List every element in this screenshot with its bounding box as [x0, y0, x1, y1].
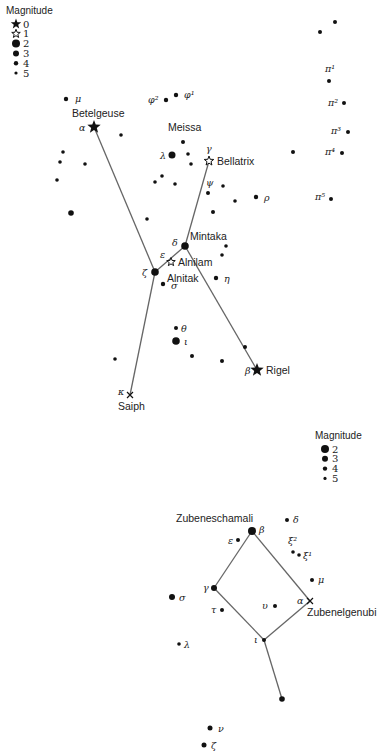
star-dot-icon [153, 180, 157, 184]
orion-greek-label-sigma: σ [171, 280, 178, 291]
star-dot-icon [113, 357, 117, 361]
orion-greek-label-saiph: κ [117, 386, 125, 397]
orion-star-bellatrix-icon [204, 156, 214, 165]
orion-star-name-meissa: Meissa [168, 121, 201, 133]
libra-greek-label-tau: τ [211, 604, 217, 615]
libra-star-zubeneschamali-icon [248, 527, 256, 535]
star-chart: αBetelgeuseβRigelγBellatrixδMintakaεAlni… [0, 0, 391, 751]
orion-greek-label-alnilam: ε [160, 249, 165, 260]
star-dot-icon [83, 162, 87, 166]
orion-star-name-betelgeuse: Betelgeuse [72, 107, 125, 119]
orion-star-rho-icon [254, 195, 258, 199]
orion-greek-label-rigel: β [244, 365, 251, 376]
orion-star-mu-icon [64, 97, 68, 101]
libra-greek-label-gamma: γ [203, 582, 209, 593]
orion-star-pi5-icon [329, 197, 333, 201]
star-dot-icon [220, 359, 224, 363]
orion-star-name-bellatrix: Bellatrix [217, 155, 255, 167]
orion-greek-label-mu: μ [75, 93, 81, 104]
constellation-lines [94, 127, 310, 699]
orion-star-name-rigel: Rigel [266, 364, 290, 376]
legend-symbol-4-icon [323, 466, 327, 470]
orion-star-name-mintaka: Mintaka [190, 230, 227, 242]
libra-greek-label-upsilon: υ [262, 600, 268, 611]
orion-star-eta-icon [214, 276, 218, 280]
libra-greek-label-iota: ι [254, 634, 258, 645]
orion-star-phi1-icon [174, 93, 178, 97]
orion-star-sigma-icon [161, 282, 165, 286]
orion-greek-label-phi2: φ² [148, 94, 159, 105]
libra-greek-label-nu: ν [218, 723, 224, 734]
star-dot-icon [186, 152, 190, 156]
libra-star-epsilon-icon [236, 538, 240, 542]
orion-greek-label-rho: ρ [263, 192, 270, 203]
legend-title: Magnitude [6, 5, 53, 16]
stars [55, 20, 350, 748]
libra-greek-label-epsilon: ε [228, 535, 233, 546]
orion-star-pi1-icon [327, 79, 331, 83]
orion-greek-label-alnitak: ζ [142, 267, 148, 278]
magnitude-legend-orion: Magnitude012345 [6, 5, 53, 79]
orion-greek-label-lambda2: λ [159, 150, 166, 161]
star-dot-icon [224, 244, 228, 248]
star-dot-icon [211, 210, 215, 214]
libra-star-upsilon-icon [273, 604, 277, 608]
orion-star-alnilam-icon [167, 258, 176, 266]
magnitude-legend-libra: Magnitude2345 [315, 430, 362, 484]
libra-star-nu-icon [208, 726, 213, 731]
orion-greek-label-psi: ψ [206, 177, 214, 188]
orion-greek-label-pi5: π⁵ [314, 191, 325, 202]
orion-greek-label-betelgeuse: α [79, 122, 86, 133]
orion-greek-label-pi2: π² [327, 97, 338, 108]
orion-star-name-saiph: Saiph [118, 400, 145, 412]
libra-constellation-line [264, 640, 282, 699]
orion-star-meissa-icon [181, 140, 185, 144]
libra-star-name-zubeneschamali: Zubeneschamali [176, 512, 253, 524]
star-dot-icon [145, 217, 149, 221]
orion-star-pi4-icon [340, 151, 344, 155]
orion-greek-label-eta: η [224, 273, 230, 284]
legend-symbol-3-icon [322, 456, 328, 462]
orion-greek-label-mintaka: δ [172, 237, 178, 248]
legend-symbol-1-icon [12, 29, 21, 37]
star-dot-icon [190, 354, 194, 358]
libra-star-gamma-icon [211, 585, 217, 591]
orion-constellation-line [130, 272, 155, 395]
legend-symbol-2-icon [321, 445, 329, 453]
orion-star-lambda2-icon [169, 152, 176, 159]
libra-constellation-line [252, 531, 310, 601]
orion-greek-label-phi1: φ¹ [184, 89, 194, 100]
star-dot-icon [160, 174, 164, 178]
orion-greek-label-bellatrix: γ [206, 143, 212, 154]
star-dot-icon [68, 210, 74, 216]
libra-greek-label-sigma: σ [179, 592, 186, 603]
legend-symbol-4-icon [14, 61, 18, 65]
legend-label-5: 5 [23, 68, 29, 79]
orion-greek-label-pi1: π¹ [324, 63, 335, 74]
legend-symbol-2-icon [12, 40, 20, 48]
star-dot-icon [61, 150, 65, 154]
star-dot-icon [220, 253, 224, 257]
orion-star-theta-icon [174, 326, 178, 330]
star-dot-icon [221, 184, 225, 188]
orion-star-alnitak-icon [151, 268, 159, 276]
libra-star-delta-icon [285, 518, 289, 522]
star-dot-icon [189, 162, 193, 166]
libra-constellation-line [264, 601, 310, 640]
legend-title: Magnitude [315, 430, 362, 441]
orion-star-name-alnilam: Alnilam [178, 256, 213, 268]
orion-star-pi2-icon [342, 101, 346, 105]
star-dot-icon [243, 345, 247, 349]
libra-constellation-line [214, 588, 264, 640]
orion-greek-label-pi4: π⁴ [324, 146, 335, 157]
libra-star-name-zubenelgenubi: Zubenelgenubi [307, 606, 376, 618]
libra-greek-label-zeta: ζ [211, 740, 217, 751]
libra-star-zeta-icon [202, 743, 207, 748]
orion-greek-label-pi3: π³ [330, 125, 341, 136]
star-dot-icon [279, 696, 285, 702]
libra-greek-label-zubeneschamali: β [258, 524, 265, 535]
libra-star-lambda-icon [177, 642, 181, 646]
legend-symbol-5-icon [14, 71, 17, 74]
orion-constellation-line [94, 127, 155, 272]
libra-greek-label-lambda: λ [183, 639, 190, 650]
